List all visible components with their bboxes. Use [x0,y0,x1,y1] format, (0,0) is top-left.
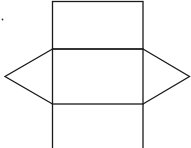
bottom-rectangle [53,104,144,148]
prism-net-diagram [0,0,191,148]
left-triangle [5,49,53,104]
dot-marker [2,19,4,21]
right-triangle [143,49,190,104]
top-rectangle [53,2,144,50]
middle-rectangle [53,49,144,104]
